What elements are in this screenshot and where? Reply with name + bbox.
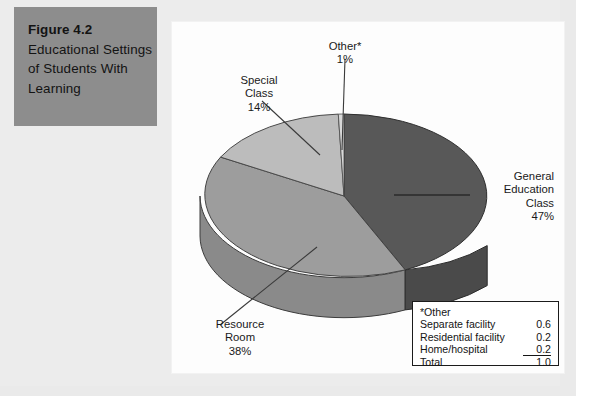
pie-label-other: Other* 1%	[315, 40, 375, 67]
row-value-residential-facility: 0.2	[523, 331, 551, 343]
table-row: Separate facility 0.6	[420, 318, 551, 330]
other-breakdown-box: *Other Separate facility 0.6 Residential…	[412, 301, 559, 366]
other-breakdown-table: *Other Separate facility 0.6 Residential…	[420, 306, 551, 368]
row-value-home-hospital: 0.2	[523, 343, 551, 356]
figure-title-line-1: Educational Settings	[28, 40, 145, 60]
table-row: Residential facility 0.2	[420, 331, 551, 343]
row-value-total: 1.0	[523, 356, 551, 369]
pie-label-general-education-class: General Education Class 47%	[472, 170, 554, 224]
pie-label-resource-room: Resource Room 38%	[200, 318, 280, 358]
pie-label-special-class-line-1: Special	[228, 74, 290, 87]
figure-number: Figure 4.2	[28, 20, 145, 40]
row-label-residential-facility: Residential facility	[420, 331, 523, 343]
row-label-home-hospital: Home/hospital	[420, 343, 523, 356]
figure-title-line-2: of Students With	[28, 59, 145, 79]
figure-title-line-3: Learning	[28, 79, 145, 99]
row-label-total: Total	[420, 356, 523, 369]
pie-label-general-value: 47%	[472, 210, 554, 223]
pie-label-resource-line-2: Room	[200, 331, 280, 344]
table-row-total: Total 1.0	[420, 356, 551, 369]
table-row-header: *Other	[420, 306, 551, 318]
row-value-separate-facility: 0.6	[523, 318, 551, 330]
pie-label-resource-line-1: Resource	[200, 318, 280, 331]
pie-label-resource-value: 38%	[200, 345, 280, 358]
row-label-separate-facility: Separate facility	[420, 318, 523, 330]
pie-label-other-value: 1%	[315, 53, 375, 66]
figure-title-block: Figure 4.2 Educational Settings of Stude…	[14, 7, 157, 126]
figure-page: Figure 4.2 Educational Settings of Stude…	[0, 0, 594, 415]
pie-label-general-line-3: Class	[472, 197, 554, 210]
header-value-spacer	[523, 306, 551, 318]
table-row: Home/hospital 0.2	[420, 343, 551, 356]
pie-label-general-line-2: Education	[472, 183, 554, 196]
pie-label-special-class: Special Class 14%	[228, 74, 290, 114]
pie-label-special-class-line-2: Class	[228, 87, 290, 100]
other-breakdown-header: *Other	[420, 306, 523, 318]
pie-label-special-class-value: 14%	[228, 101, 290, 114]
pie-label-general-line-1: General	[472, 170, 554, 183]
pie-label-other-name: Other*	[315, 40, 375, 53]
